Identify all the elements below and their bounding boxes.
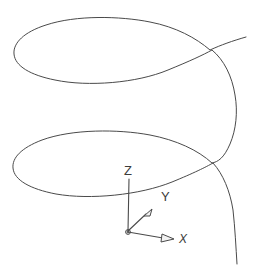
z-axis-line: [128, 179, 129, 231]
y-axis-arrowhead-icon: [144, 209, 152, 216]
z-axis-label: Z: [124, 163, 132, 178]
x-axis-label: X: [178, 232, 188, 246]
x-axis-arrowhead-icon: [161, 234, 174, 242]
y-axis-line: [128, 214, 146, 231]
x-axis-line: [128, 232, 163, 238]
helix-diagram: Z Y X: [0, 0, 255, 265]
diagram-canvas: Z Y X: [0, 0, 255, 265]
helix-upper-turn: [14, 17, 246, 163]
helix-lower-turn: [13, 131, 237, 264]
y-axis-label: Y: [161, 189, 170, 204]
